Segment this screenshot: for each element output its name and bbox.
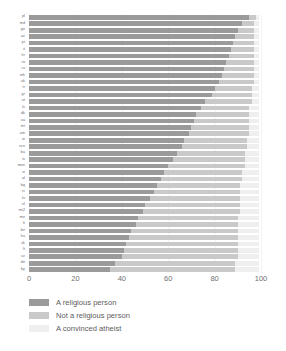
bar-row xyxy=(29,248,261,253)
bar-segment-atheist xyxy=(249,131,258,136)
bar-segment-not_religious xyxy=(226,60,254,65)
bar-segment-religious xyxy=(29,216,138,221)
y-axis-label: ie xyxy=(22,138,25,142)
bar-row xyxy=(29,67,261,72)
y-axis-label: lt xyxy=(23,248,25,252)
y-axis-label: ua xyxy=(21,119,25,123)
bar-row xyxy=(29,112,261,117)
bar-row xyxy=(29,196,261,201)
bar-segment-not_religious xyxy=(136,222,238,227)
y-axis-label: bg xyxy=(21,184,25,188)
x-axis-tick-label: 60 xyxy=(164,275,172,283)
y-axis-label: pt xyxy=(22,41,25,45)
bar-segment-not_religious xyxy=(212,93,251,98)
bar-row xyxy=(29,254,261,259)
bar-row xyxy=(29,242,261,247)
bar-row xyxy=(29,164,261,169)
bar-row xyxy=(29,47,261,52)
bar-row xyxy=(29,60,261,65)
bar-segment-not_religious xyxy=(131,229,238,234)
y-axis-label: tr xyxy=(23,86,25,90)
y-axis-label: mt2 xyxy=(19,209,25,213)
bar-segment-not_religious xyxy=(115,261,236,266)
bar-segment-not_religious xyxy=(122,254,238,259)
bar-segment-religious xyxy=(29,177,161,182)
bar-row xyxy=(29,28,261,33)
legend-item-not_religious[interactable]: Not a religious person xyxy=(29,309,249,322)
y-axis-label: scn xyxy=(19,145,25,149)
x-axis-tick-label: 40 xyxy=(118,275,126,283)
bar-segment-not_religious xyxy=(143,209,240,214)
bar-segment-atheist xyxy=(247,138,259,143)
y-axis-label: mon xyxy=(18,164,25,168)
bar-row xyxy=(29,170,261,175)
bar-segment-atheist xyxy=(240,190,259,195)
bar-segment-religious xyxy=(29,73,222,78)
bar-segment-atheist xyxy=(245,151,259,156)
bar-segment-religious xyxy=(29,119,194,124)
bar-row xyxy=(29,144,261,149)
bar-row xyxy=(29,222,261,227)
bar-segment-religious xyxy=(29,248,124,253)
bar-segment-not_religious xyxy=(110,267,235,272)
y-axis-label: ge xyxy=(21,28,25,32)
bar-row xyxy=(29,209,261,214)
bar-segment-atheist xyxy=(238,229,259,234)
y-axis-label: me xyxy=(20,216,25,220)
bar-segment-not_religious xyxy=(242,21,254,26)
bar-segment-atheist xyxy=(249,106,258,111)
y-axis-label: hr xyxy=(22,54,25,58)
x-axis-tick-label: 20 xyxy=(71,275,79,283)
bar-segment-not_religious xyxy=(124,248,238,253)
y-axis-label: it xyxy=(23,48,25,52)
y-axis-label: ro xyxy=(22,61,25,65)
bar-segment-religious xyxy=(29,164,168,169)
bar-row xyxy=(29,41,261,46)
legend-item-religious[interactable]: A religious person xyxy=(29,296,249,309)
bar-row xyxy=(29,157,261,162)
legend-swatch-atheist xyxy=(29,325,49,332)
x-axis-tick-label: 100 xyxy=(255,275,268,283)
bar-segment-atheist xyxy=(254,54,259,59)
bar-segment-atheist xyxy=(254,47,259,52)
bar-segment-atheist xyxy=(238,222,259,227)
bar-segment-atheist xyxy=(240,196,259,201)
bar-segment-not_religious xyxy=(182,144,247,149)
bar-segment-religious xyxy=(29,235,129,240)
bar-segment-not_religious xyxy=(191,125,249,130)
bar-segment-not_religious xyxy=(189,131,249,136)
bar-segment-atheist xyxy=(238,216,259,221)
y-axis-label: cz xyxy=(21,255,25,259)
bar-segment-not_religious xyxy=(231,47,254,52)
bar-row xyxy=(29,125,261,130)
bar-segment-atheist xyxy=(235,261,258,266)
bar-segment-atheist xyxy=(249,112,258,117)
bar-segment-religious xyxy=(29,190,154,195)
x-axis: 020406080100 xyxy=(29,273,261,287)
bar-segment-atheist xyxy=(252,93,259,98)
bar-segment-religious xyxy=(29,222,136,227)
bar-segment-religious xyxy=(29,151,177,156)
y-axis: plmdgeazptithrrorumkuktrgratlvdkuamtamie… xyxy=(0,14,27,273)
bar-segment-atheist xyxy=(240,183,259,188)
y-axis-label: ru xyxy=(22,67,25,71)
legend-item-atheist[interactable]: A convinced atheist xyxy=(29,322,249,335)
bar-segment-atheist xyxy=(254,34,259,39)
bar-segment-religious xyxy=(29,183,157,188)
bar-row xyxy=(29,138,261,143)
bar-segment-religious xyxy=(29,106,201,111)
bar-segment-religious xyxy=(29,131,189,136)
y-axis-label: pl xyxy=(22,15,25,19)
bar-segment-religious xyxy=(29,21,242,26)
bar-segment-not_religious xyxy=(249,15,256,20)
bar-segment-not_religious xyxy=(184,138,247,143)
bar-row xyxy=(29,106,261,111)
bar-row xyxy=(29,229,261,234)
bar-row xyxy=(29,119,261,124)
bar-segment-religious xyxy=(29,67,224,72)
y-axis-label: rs xyxy=(22,190,25,194)
bar-segment-religious xyxy=(29,112,196,117)
legend-label: Not a religious person xyxy=(56,312,130,320)
y-axis-label: nl xyxy=(22,203,25,207)
y-axis-label: gr xyxy=(22,93,25,97)
